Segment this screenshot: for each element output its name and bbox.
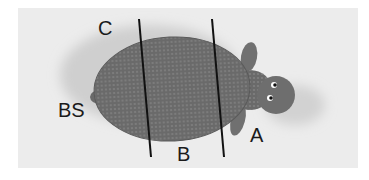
label-a: A [250,125,263,145]
turtle-region-figure: C BS B A [0,0,369,180]
label-bs: BS [58,100,85,120]
label-c: C [98,18,112,38]
turtle-head [257,76,295,114]
label-b: B [177,144,190,164]
